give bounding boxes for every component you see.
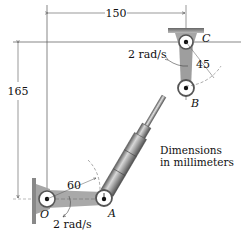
point-label-B: B bbox=[190, 97, 199, 110]
pin-B bbox=[178, 80, 194, 96]
units-note-line1: Dimensions bbox=[160, 144, 222, 156]
point-label-A: A bbox=[107, 207, 116, 220]
dimension-165: 165 bbox=[8, 43, 29, 198]
point-label-C: C bbox=[202, 32, 211, 45]
units-note-line2: in millimeters bbox=[160, 156, 234, 168]
angular-velocity-C: 2 rad/s bbox=[128, 48, 188, 66]
dimension-150: 150 bbox=[48, 7, 185, 20]
dimension-165-label: 165 bbox=[8, 85, 29, 98]
angle-60-label: 60 bbox=[67, 179, 81, 192]
angular-velocity-O-label: 2 rad/s bbox=[53, 218, 92, 231]
angle-45-label: 45 bbox=[196, 58, 210, 71]
mechanism-diagram: 150 165 bbox=[0, 0, 241, 236]
angular-velocity-C-label: 2 rad/s bbox=[128, 48, 167, 61]
dimension-150-label: 150 bbox=[106, 7, 127, 20]
point-label-O: O bbox=[40, 208, 49, 221]
pin-A bbox=[96, 190, 112, 206]
